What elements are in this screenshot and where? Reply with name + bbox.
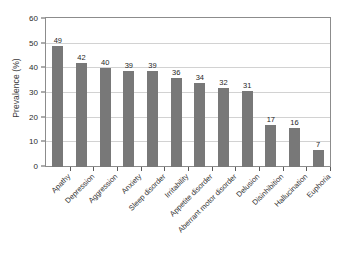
bar[interactable] — [171, 78, 182, 167]
bar-value-label: 16 — [290, 118, 298, 127]
bar-slot[interactable]: 36 — [164, 18, 188, 167]
bar-slot[interactable]: 49 — [46, 18, 70, 167]
bar-value-label: 7 — [316, 140, 320, 149]
y-tick-label: 40 — [6, 63, 38, 72]
bar[interactable] — [52, 46, 63, 167]
bar-value-label: 39 — [148, 61, 156, 70]
bar-value-label: 49 — [54, 36, 62, 45]
bar[interactable] — [76, 63, 87, 167]
y-tick-mark — [41, 92, 45, 93]
x-tick-mark — [306, 167, 307, 171]
x-tick-mark — [330, 167, 331, 171]
bar-slot[interactable]: 39 — [117, 18, 141, 167]
y-tick-mark — [41, 42, 45, 43]
x-tick-mark — [188, 167, 189, 171]
bar-slot[interactable]: 42 — [70, 18, 94, 167]
bar[interactable] — [218, 88, 229, 167]
y-tick-mark — [41, 67, 45, 68]
y-tick-mark — [41, 18, 45, 19]
bar-chart: Prevalence (%) 49424039393634323117167 A… — [0, 0, 350, 262]
bar[interactable] — [100, 68, 111, 167]
x-tick-mark — [212, 167, 213, 171]
bar[interactable] — [194, 83, 205, 167]
bar-slot[interactable]: 31 — [235, 18, 259, 167]
y-tick-mark — [41, 141, 45, 142]
bar-slot[interactable]: 7 — [306, 18, 330, 167]
bar-slot[interactable]: 39 — [141, 18, 165, 167]
bar-value-label: 42 — [77, 53, 85, 62]
bar-slot[interactable]: 16 — [283, 18, 307, 167]
y-tick-label: 20 — [6, 112, 38, 121]
bar-slot[interactable]: 17 — [259, 18, 283, 167]
x-axis-category-label: Euphoria — [305, 172, 333, 200]
y-tick-label: 0 — [6, 162, 38, 171]
bar-value-label: 32 — [219, 78, 227, 87]
bar-value-label: 17 — [267, 115, 275, 124]
bars-layer: 49424039393634323117167 — [46, 18, 330, 167]
y-tick-label: 30 — [6, 88, 38, 97]
x-tick-mark — [117, 167, 118, 171]
y-tick-label: 50 — [6, 38, 38, 47]
x-tick-mark — [93, 167, 94, 171]
x-tick-mark — [283, 167, 284, 171]
y-tick-mark — [41, 166, 45, 167]
bar-slot[interactable]: 34 — [188, 18, 212, 167]
bar-slot[interactable]: 32 — [212, 18, 236, 167]
bar[interactable] — [289, 128, 300, 167]
bar[interactable] — [313, 150, 324, 167]
x-tick-mark — [235, 167, 236, 171]
bar-value-label: 40 — [101, 58, 109, 67]
x-tick-mark — [259, 167, 260, 171]
x-tick-mark — [164, 167, 165, 171]
bar[interactable] — [123, 71, 134, 167]
y-tick-label: 60 — [6, 14, 38, 23]
bar[interactable] — [147, 71, 158, 167]
bar[interactable] — [242, 91, 253, 167]
bar-value-label: 36 — [172, 68, 180, 77]
y-tick-label: 10 — [6, 137, 38, 146]
x-tick-mark — [141, 167, 142, 171]
bar-slot[interactable]: 40 — [93, 18, 117, 167]
x-tick-mark — [70, 167, 71, 171]
bar-value-label: 31 — [243, 81, 251, 90]
bar-value-label: 39 — [125, 61, 133, 70]
bar-value-label: 34 — [196, 73, 204, 82]
bar[interactable] — [265, 125, 276, 167]
y-tick-mark — [41, 116, 45, 117]
